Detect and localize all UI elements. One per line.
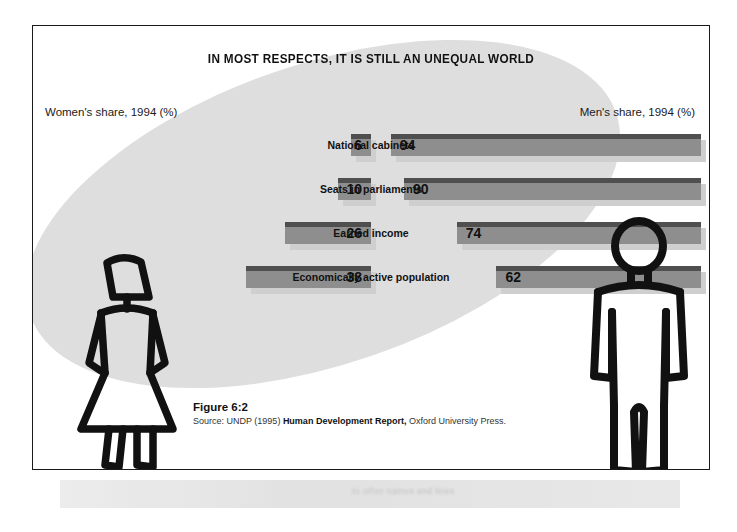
women-value-label: 38 — [346, 266, 362, 288]
chart-title: IN MOST RESPECTS, IT IS STILL AN UNEQUAL… — [53, 52, 688, 66]
women-bar: 38 — [246, 266, 371, 288]
bar-top-edge — [391, 134, 701, 139]
men-bar: 90 — [404, 178, 701, 200]
source-title: Human Development Report, — [283, 416, 407, 426]
figure-caption: Figure 6:2 Source: UNDP (1995) Human Dev… — [193, 401, 506, 426]
men-bar: 94 — [391, 134, 701, 156]
women-value-label: 26 — [346, 222, 362, 244]
women-value-label: 6 — [354, 134, 362, 156]
figure-source: Source: UNDP (1995) Human Development Re… — [193, 416, 506, 426]
scan-bleed-text: to other names and lines — [352, 486, 455, 496]
men-value-label: 94 — [400, 134, 416, 156]
men-value-label: 74 — [466, 222, 482, 244]
axis-label-women: Women's share, 1994 (%) — [45, 106, 177, 118]
bar-top-edge — [404, 178, 701, 183]
men-value-label: 62 — [505, 266, 521, 288]
women-bar: 10 — [338, 178, 371, 200]
male-figure-illustration — [578, 216, 703, 470]
women-bar: 26 — [285, 222, 371, 244]
source-suffix: Oxford University Press. — [406, 416, 506, 426]
men-value-label: 90 — [413, 178, 429, 200]
female-figure-illustration — [61, 251, 191, 470]
bar-row: 694National cabinets — [33, 134, 709, 160]
women-value-label: 10 — [346, 178, 362, 200]
bar-row: 1090Seats in parliaments — [33, 178, 709, 204]
source-prefix: Source: UNDP (1995) — [193, 416, 283, 426]
chart-frame: IN MOST RESPECTS, IT IS STILL AN UNEQUAL… — [32, 25, 710, 470]
axis-label-men: Men's share, 1994 (%) — [580, 106, 695, 118]
women-bar: 6 — [351, 134, 371, 156]
figure-number: Figure 6:2 — [193, 401, 506, 413]
